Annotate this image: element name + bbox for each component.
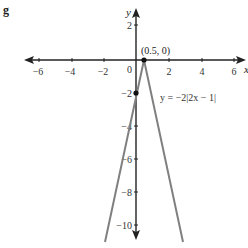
function-curve bbox=[105, 60, 183, 242]
x-tick-label: −2 bbox=[98, 66, 109, 77]
y-intercept-point bbox=[133, 90, 138, 95]
y-tick-label: −2 bbox=[121, 88, 132, 99]
x-axis-name: x bbox=[243, 63, 248, 75]
origin-label: 0 bbox=[127, 64, 132, 75]
x-tick-label: 6 bbox=[232, 66, 237, 77]
y-tick-label: −10 bbox=[116, 220, 132, 231]
x-tick-label: −6 bbox=[33, 66, 44, 77]
x-tick-label: −4 bbox=[65, 66, 76, 77]
y-tick-label: −8 bbox=[121, 187, 132, 198]
y-tick-label: 2 bbox=[127, 20, 132, 31]
x-tick-label: 4 bbox=[200, 66, 205, 77]
y-axis-name: y bbox=[125, 6, 131, 18]
x-tick-label: 2 bbox=[167, 66, 172, 77]
panel-label: g bbox=[3, 3, 9, 17]
equation-label: y = −2|2x − 1| bbox=[160, 92, 216, 103]
vertex-label: (0.5, 0) bbox=[141, 45, 170, 57]
vertex-point bbox=[141, 57, 146, 62]
x-tick-labels: −6 −4 −2 2 4 6 bbox=[33, 66, 237, 77]
graph: g x y −6 −4 −2 2 4 6 0 bbox=[0, 0, 248, 248]
